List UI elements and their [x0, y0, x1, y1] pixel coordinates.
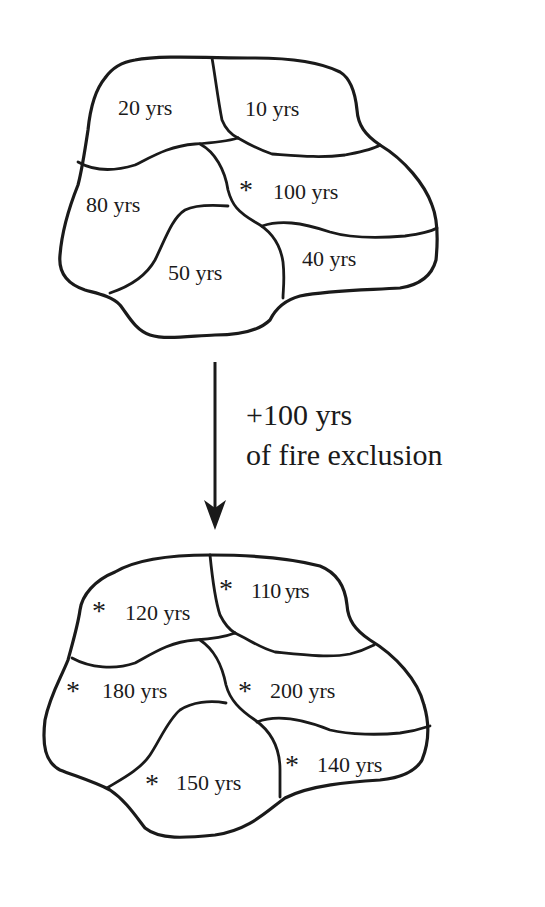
patch-label-after-w: 180 yrs	[102, 678, 167, 703]
patch-label-before-s: 50 yrs	[168, 260, 222, 285]
asterisk-icon: *	[238, 675, 252, 706]
patch-label-before-w: 80 yrs	[86, 192, 140, 217]
asterisk-icon: *	[92, 595, 106, 626]
mosaic-after: * 120 yrs * 110 yrs * 180 yrs * 200 yrs …	[44, 555, 430, 837]
mosaic-after-divider-ne-e	[235, 633, 374, 656]
patch-label-after-s: 150 yrs	[176, 770, 241, 795]
asterisk-icon: *	[219, 573, 233, 604]
asterisk-icon: *	[239, 174, 253, 205]
asterisk-icon: *	[66, 675, 80, 706]
patch-label-after-ne: 110 yrs	[251, 578, 309, 603]
diagram-canvas: 20 yrs 10 yrs 80 yrs * 100 yrs 50 yrs 40…	[0, 0, 545, 907]
transition-line1: +100 yrs	[246, 398, 352, 431]
mosaic-before-divider-nw-ne	[212, 58, 238, 138]
patch-label-after-se: 140 yrs	[317, 752, 382, 777]
mosaic-before-divider-nw-w	[78, 138, 238, 169]
mosaic-after-divider-e-se	[257, 718, 430, 734]
mosaic-before-divider-ne-e	[238, 138, 380, 157]
patch-label-before-nw: 20 yrs	[118, 95, 172, 120]
patch-label-before-se: 40 yrs	[302, 246, 356, 271]
patch-label-after-nw: 120 yrs	[125, 600, 190, 625]
patch-label-after-e: 200 yrs	[270, 678, 335, 703]
transition-line2: of fire exclusion	[246, 438, 443, 471]
asterisk-icon: *	[145, 768, 159, 799]
asterisk-icon: *	[285, 749, 299, 780]
mosaic-before-divider-e-se	[262, 223, 437, 238]
patch-label-before-e: 100 yrs	[273, 179, 338, 204]
patch-label-before-ne: 10 yrs	[245, 96, 299, 121]
transition: +100 yrs of fire exclusion	[204, 362, 443, 530]
mosaic-before: 20 yrs 10 yrs 80 yrs * 100 yrs 50 yrs 40…	[60, 57, 437, 337]
